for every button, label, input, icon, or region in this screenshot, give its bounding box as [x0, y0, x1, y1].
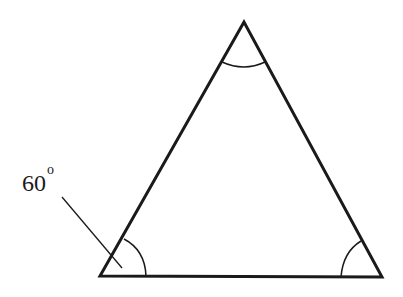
angle-value: 60 [22, 170, 46, 196]
apex-angle-arc [222, 62, 265, 67]
triangle-diagram: 60 o [0, 0, 403, 297]
angle-label: 60 [22, 170, 46, 196]
bottom-left-angle-arc [124, 239, 146, 276]
triangle [100, 22, 382, 277]
degree-symbol: o [47, 162, 54, 177]
bottom-right-angle-arc [341, 241, 361, 277]
angle-leader-line [62, 197, 122, 268]
